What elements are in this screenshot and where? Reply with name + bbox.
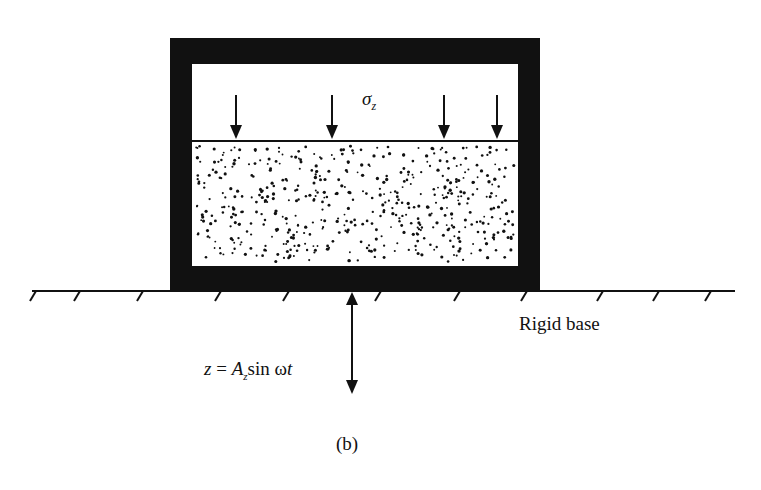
stress-label: σz [362, 88, 376, 114]
eq-equals: = [211, 358, 231, 379]
vibration-equation: z = Azsin ωt [204, 358, 292, 382]
eq-amplitude: A [232, 358, 244, 379]
eq-sin: sin [248, 358, 275, 379]
rigid-base-ground [30, 291, 735, 301]
rigid-container [170, 38, 540, 292]
stress-symbol: σ [362, 88, 371, 109]
stress-subscript: z [371, 99, 376, 113]
diagram-canvas [0, 0, 761, 490]
eq-omega: ω [274, 358, 287, 379]
rigid-base-label: Rigid base [519, 313, 600, 335]
eq-t: t [287, 358, 292, 379]
vibration-arrow [346, 292, 358, 394]
figure-caption: (b) [336, 433, 358, 455]
